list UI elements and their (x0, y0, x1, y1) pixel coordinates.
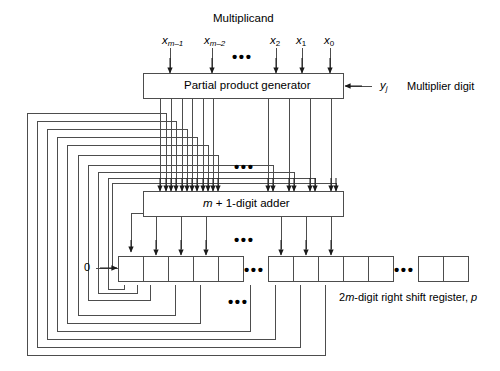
input-label-x-m-2: xm–2 (204, 35, 225, 48)
serial-input-zero-label: 0 (84, 262, 90, 273)
input-label-x-0: x0 (324, 35, 334, 48)
generator-output-ellipsis: ••• (234, 159, 255, 174)
feedback-ellipsis: ••• (228, 294, 249, 309)
multiplicand-label: Multiplicand (213, 13, 274, 25)
adder-label: m + 1-digit adder (203, 198, 290, 210)
input-ellipsis: ••• (232, 49, 253, 64)
shift-register-caption: 2m-digit right shift register, p (339, 292, 477, 303)
register-ellipsis-right: ••• (394, 262, 415, 277)
input-label-x-2: x2 (270, 35, 280, 48)
multiplier-digit-symbol: yj (380, 80, 388, 93)
register-ellipsis-left: ••• (244, 262, 265, 277)
multiplier-datapath-diagram: Multiplicand xm–1 xm–2 x2 x1 x0 ••• Part… (0, 0, 500, 371)
input-label-x-1: x1 (296, 35, 306, 48)
partial-product-generator-label: Partial product generator (184, 80, 311, 92)
adder-output-ellipsis: ••• (234, 232, 255, 247)
multiplier-digit-label: Multiplier digit (407, 81, 474, 92)
input-label-x-m-1: xm–1 (162, 35, 183, 48)
